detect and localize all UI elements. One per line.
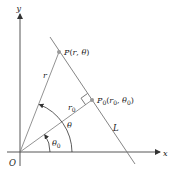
y-axis-label: y	[16, 4, 22, 13]
point-P0-label: P0(r0, θ0)	[96, 96, 134, 106]
theta0-arc	[45, 135, 50, 152]
r-label: r	[43, 71, 48, 80]
point-P0	[90, 98, 94, 102]
line-L-label: L	[112, 123, 119, 133]
x-axis-label: x	[163, 149, 168, 158]
point-P-label: P(r, θ)	[63, 48, 89, 57]
point-P	[57, 50, 61, 54]
ray-r	[20, 52, 59, 152]
right-angle-marker	[81, 94, 88, 105]
theta-label: θ	[67, 121, 72, 130]
polar-line-diagram: y x O P(r, θ) P0(r0, θ0) r r0 θ θ0 L	[0, 0, 173, 180]
theta0-label: θ0	[52, 139, 61, 149]
origin-label: O	[9, 158, 16, 168]
diagram-svg: y x O P(r, θ) P0(r0, θ0) r r0 θ θ0 L	[0, 0, 173, 180]
r0-label: r0	[68, 103, 76, 113]
